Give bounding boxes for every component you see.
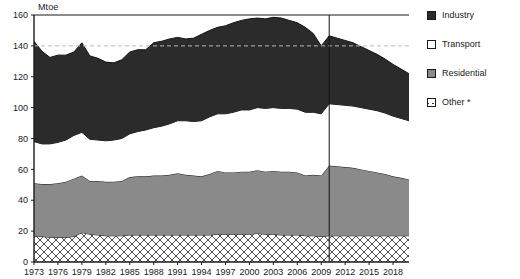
y-tick-label: 60 [18,165,28,175]
x-tick-label: 1979 [72,267,92,277]
x-tick-label: 2006 [287,267,307,277]
legend-label-residential: Residential [442,68,487,79]
transport-swatch-icon [427,40,436,49]
y-tick-label: 160 [13,10,28,20]
x-tick-label: 2018 [383,267,403,277]
chart-container: Mtoe 02040608010012014016019731976197919… [0,0,520,279]
legend-item-other[interactable]: Other * [427,97,517,108]
x-tick-label: 2009 [311,267,331,277]
y-tick-label: 140 [13,41,28,51]
legend-label-other: Other * [442,97,471,108]
x-tick-label: 2003 [263,267,283,277]
y-tick-label: 0 [23,257,28,267]
x-tick-label: 2012 [335,267,355,277]
industry-swatch-icon [427,11,436,20]
x-tick-label: 1973 [24,267,44,277]
legend-item-residential[interactable]: Residential [427,68,517,79]
series-layer [34,17,409,262]
legend-item-transport[interactable]: Transport [427,39,517,50]
y-tick-label: 40 [18,195,28,205]
y-tick-label: 20 [18,226,28,236]
x-tick-label: 2015 [359,267,379,277]
x-tick-label: 1976 [48,267,68,277]
x-tick-label: 2000 [239,267,259,277]
x-tick-label: 1982 [96,267,116,277]
y-tick-label: 100 [13,103,28,113]
x-tick-label: 1997 [215,267,235,277]
chart-legend: Industry Transport Residential Other * [427,10,517,126]
x-tick-label: 1985 [120,267,140,277]
other-swatch-icon [427,98,436,107]
x-tick-label: 1991 [168,267,188,277]
legend-item-industry[interactable]: Industry [427,10,517,21]
x-tick-label: 1988 [144,267,164,277]
residential-swatch-icon [427,69,436,78]
y-tick-label: 80 [18,134,28,144]
legend-label-transport: Transport [442,39,480,50]
x-tick-label: 1994 [192,267,212,277]
y-tick-label: 120 [13,72,28,82]
legend-label-industry: Industry [442,10,474,21]
